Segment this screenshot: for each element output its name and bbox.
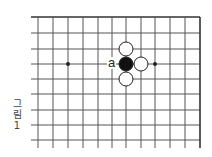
caption-char-3: 1 — [14, 120, 20, 131]
caption-char-2: 림 — [13, 109, 22, 120]
figure-caption: 그 림 1 — [10, 98, 24, 131]
board-grid — [31, 17, 200, 148]
white-stone-top — [119, 42, 133, 56]
star-point-icon — [66, 62, 70, 66]
caption-char-1: 그 — [13, 98, 22, 109]
star-point-icon — [153, 62, 157, 66]
point-label-a: a — [107, 57, 116, 69]
white-stone-right — [134, 57, 148, 71]
white-stone-bottom — [119, 72, 133, 86]
black-stone-center — [119, 57, 133, 71]
go-board — [0, 0, 212, 157]
